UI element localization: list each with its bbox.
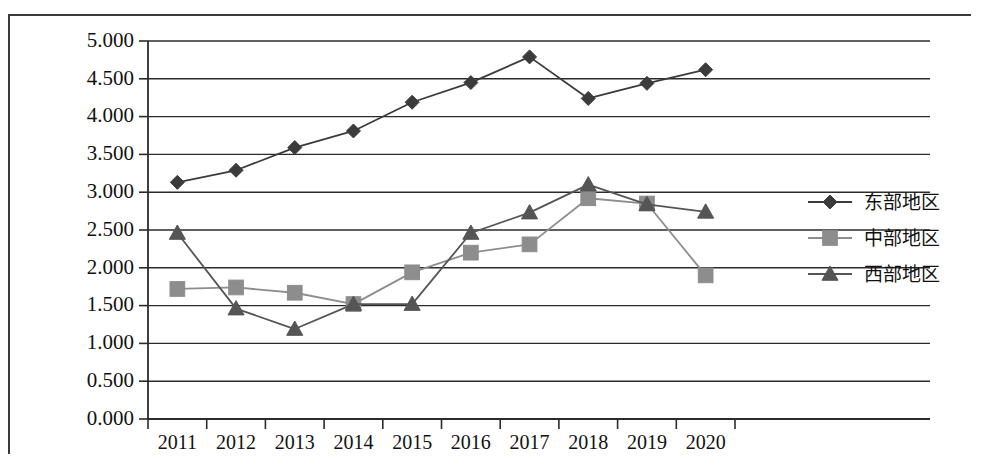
x-tick-label: 2020 xyxy=(686,431,726,453)
data-point-marker-square xyxy=(405,265,420,280)
x-tick-label: 2011 xyxy=(158,431,197,453)
legend-item-label: 东部地区 xyxy=(864,191,940,213)
y-tick-label: 1.000 xyxy=(87,330,134,354)
y-tick-label: 4.500 xyxy=(87,66,134,90)
data-point-marker-diamond xyxy=(229,163,243,177)
data-point-marker-square xyxy=(287,285,302,300)
y-tick-label: 0.500 xyxy=(87,368,134,392)
x-tick-label: 2013 xyxy=(275,431,315,453)
data-point-marker-square xyxy=(522,237,537,252)
data-point-marker-square xyxy=(170,282,185,297)
y-tick-label: 3.000 xyxy=(87,179,134,203)
data-point-marker-triangle xyxy=(287,321,303,335)
data-point-marker-square xyxy=(581,191,596,206)
x-tick-label: 2019 xyxy=(627,431,667,453)
data-point-marker-diamond xyxy=(288,141,302,155)
data-point-marker-diamond xyxy=(581,91,595,105)
y-tick-label: 4.000 xyxy=(87,103,134,127)
chart-legend: 东部地区中部地区西部地区 xyxy=(808,191,940,285)
y-tick-label: 3.500 xyxy=(87,141,134,165)
y-tick-label: 5.000 xyxy=(87,28,134,52)
data-point-marker-diamond xyxy=(170,175,184,189)
legend-item-label: 西部地区 xyxy=(864,263,940,285)
data-point-marker-square xyxy=(823,231,838,246)
y-tick-label: 2.000 xyxy=(87,255,134,279)
data-point-marker-diamond xyxy=(523,50,537,64)
data-point-marker-diamond xyxy=(464,76,478,90)
data-point-marker-square xyxy=(229,280,244,295)
series-2 xyxy=(170,191,713,312)
y-axis xyxy=(139,41,148,419)
x-tick-label: 2012 xyxy=(216,431,256,453)
y-tick-labels: 0.0000.5001.0001.5002.0002.5003.0003.500… xyxy=(87,28,134,430)
data-point-marker-triangle xyxy=(522,205,538,219)
x-tick-label: 2018 xyxy=(568,431,608,453)
series-3 xyxy=(169,177,713,336)
x-tick-label: 2017 xyxy=(510,431,550,453)
legend-item-label: 中部地区 xyxy=(864,227,940,249)
series-line xyxy=(177,57,705,182)
y-tick-label: 0.000 xyxy=(87,406,134,430)
data-point-marker-square xyxy=(464,245,479,260)
x-tick-label: 2014 xyxy=(333,431,373,453)
legend-item-3[interactable]: 西部地区 xyxy=(808,263,940,285)
data-point-marker-diamond xyxy=(823,195,837,209)
series-line xyxy=(177,185,705,329)
data-point-marker-diamond xyxy=(699,63,713,77)
line-chart: 0.0000.5001.0001.5002.0002.5003.0003.500… xyxy=(0,0,985,466)
x-tick-label: 2015 xyxy=(392,431,432,453)
gridlines-group xyxy=(148,41,930,419)
data-point-marker-diamond xyxy=(346,124,360,138)
data-point-marker-triangle xyxy=(463,225,479,239)
x-tick-label: 2016 xyxy=(451,431,491,453)
series-1 xyxy=(170,50,712,189)
y-tick-label: 1.500 xyxy=(87,292,134,316)
data-point-marker-square xyxy=(698,268,713,283)
data-point-marker-triangle xyxy=(169,225,185,239)
data-point-marker-diamond xyxy=(405,95,419,109)
x-tick-labels: 2011201220132014201520162017201820192020 xyxy=(158,431,726,453)
y-tick-label: 2.500 xyxy=(87,217,134,241)
legend-item-1[interactable]: 东部地区 xyxy=(808,191,940,213)
x-axis xyxy=(148,419,930,429)
series-line xyxy=(177,198,705,304)
data-point-marker-triangle xyxy=(580,177,596,191)
